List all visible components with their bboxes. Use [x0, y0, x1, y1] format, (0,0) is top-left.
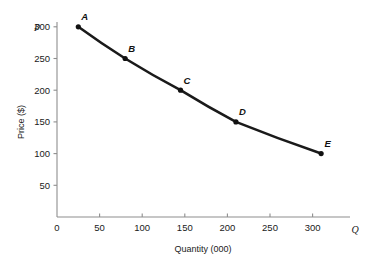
- data-point-b: [123, 56, 128, 61]
- y-tick-label: 50: [39, 180, 50, 191]
- x-axis-symbol-label: Q: [351, 224, 359, 235]
- data-point-d: [233, 119, 238, 124]
- data-points-group: [76, 24, 324, 156]
- y-axis-ticks: 50100150200250300: [34, 21, 57, 191]
- data-point-labels-group: ABCDE: [80, 11, 331, 149]
- y-axis-symbol-label: P: [33, 22, 40, 33]
- chart-canvas: 50100150200250300 050100150200250300 P Q…: [0, 0, 372, 264]
- x-tick-label: 300: [305, 222, 321, 233]
- data-point-label-a: A: [80, 11, 88, 22]
- y-axis-group: 50100150200250300: [34, 21, 57, 217]
- data-point-a: [76, 24, 81, 29]
- demand-curve-line: [78, 27, 321, 154]
- x-tick-label: 200: [219, 222, 235, 233]
- x-axis-group: 050100150200250300: [54, 214, 350, 234]
- data-point-label-e: E: [324, 138, 331, 149]
- y-tick-label: 150: [34, 116, 50, 127]
- x-tick-label: 50: [94, 222, 105, 233]
- y-tick-label: 100: [34, 148, 50, 159]
- x-tick-label: 150: [177, 222, 193, 233]
- x-tick-label: 100: [134, 222, 150, 233]
- x-tick-label: 0: [54, 222, 59, 233]
- x-axis-ticks: 050100150200250300: [54, 214, 320, 234]
- data-point-label-c: C: [184, 75, 191, 86]
- data-point-e: [319, 151, 324, 156]
- data-point-label-d: D: [239, 106, 246, 117]
- x-tick-label: 250: [262, 222, 278, 233]
- y-tick-label: 200: [34, 85, 50, 96]
- data-point-c: [178, 88, 183, 93]
- y-tick-label: 250: [34, 53, 50, 64]
- data-point-label-b: B: [128, 43, 135, 54]
- y-axis-title: Price ($): [16, 105, 26, 139]
- x-axis-title: Quantity (000): [174, 244, 231, 254]
- demand-curve-chart: 50100150200250300 050100150200250300 P Q…: [0, 0, 372, 264]
